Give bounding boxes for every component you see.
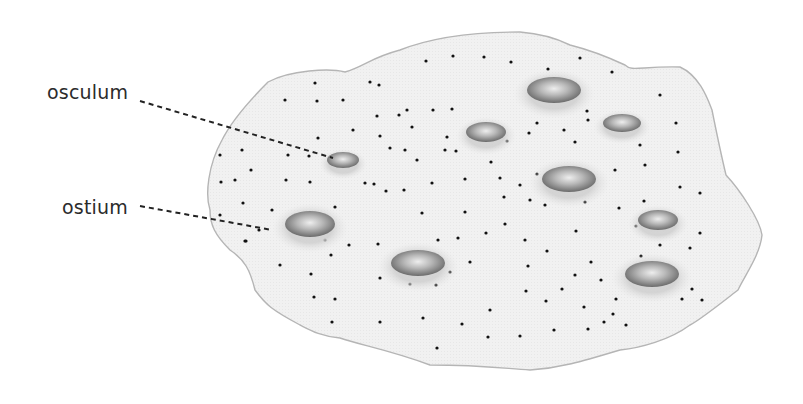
pore-dot xyxy=(454,149,457,152)
pore-dot xyxy=(377,83,380,86)
pore-dot xyxy=(240,148,243,151)
osculum-opening xyxy=(378,242,459,291)
pore-dot xyxy=(498,176,501,179)
pore-dot xyxy=(315,99,318,102)
pore-dot xyxy=(573,273,576,276)
pore-dot xyxy=(586,118,589,121)
pore-dot xyxy=(599,278,602,281)
pore-dot xyxy=(397,113,400,116)
pore-dot xyxy=(690,287,693,290)
pore-dot xyxy=(610,70,613,73)
pore-dot xyxy=(698,191,701,194)
osculum-opening xyxy=(514,69,595,118)
pore-dot xyxy=(658,243,661,246)
pore-dot xyxy=(509,60,512,63)
pore-dot xyxy=(523,238,526,241)
pore-dot xyxy=(270,208,273,211)
pore-dot xyxy=(638,143,641,146)
pore-dot xyxy=(421,316,424,319)
pore-dot xyxy=(502,195,505,198)
pore-dot xyxy=(405,108,408,111)
pore-dot xyxy=(589,260,592,263)
pore-dot xyxy=(489,160,492,163)
label-ostium: ostium xyxy=(62,198,128,217)
pore-dot xyxy=(316,136,319,139)
pore-dot xyxy=(436,238,439,241)
pore-dot xyxy=(486,335,489,338)
pore-dot xyxy=(527,131,530,134)
pore-dot xyxy=(410,125,413,128)
pore-dot xyxy=(420,211,423,214)
pore-dot xyxy=(535,121,538,124)
pore-dot xyxy=(674,121,677,124)
pore-dot xyxy=(451,54,454,57)
pore-dot xyxy=(482,55,485,58)
osculum-opening xyxy=(628,205,688,243)
sponge-diagram: osculum ostium xyxy=(0,0,803,404)
pore-dot xyxy=(284,178,287,181)
pore-dot xyxy=(313,81,316,84)
pore-dot xyxy=(643,163,646,166)
pore-dot xyxy=(585,109,588,112)
pore-dot xyxy=(524,289,527,292)
pore-dot xyxy=(402,188,405,191)
pore-dot xyxy=(617,206,620,209)
pore-dot xyxy=(518,334,521,337)
pore-dot xyxy=(243,239,246,242)
pore-dot xyxy=(528,198,531,201)
pore-dot xyxy=(698,231,701,234)
pore-dot xyxy=(526,264,529,267)
pore-dot xyxy=(415,158,418,161)
pore-dot xyxy=(562,128,565,131)
pore-dot xyxy=(424,59,427,62)
pore-dot xyxy=(658,93,661,96)
pore-dot xyxy=(578,56,581,59)
pore-dot xyxy=(241,201,244,204)
pore-dot xyxy=(552,328,555,331)
osculum-opening xyxy=(594,110,651,144)
pore-dot xyxy=(375,114,378,117)
pore-dot xyxy=(545,249,548,252)
pore-dot xyxy=(435,346,438,349)
pore-dot xyxy=(642,199,645,202)
pore-dot xyxy=(582,305,585,308)
osculum-opening xyxy=(273,203,348,252)
pore-dot xyxy=(484,231,487,234)
pore-dot xyxy=(463,210,466,213)
pore-dot xyxy=(678,185,681,188)
pore-dot xyxy=(614,297,617,300)
osculum-opening xyxy=(612,253,693,302)
pore-dot xyxy=(403,148,406,151)
pore-dot xyxy=(503,222,506,225)
pore-dot xyxy=(283,98,286,101)
pore-dot xyxy=(573,140,576,143)
pore-dot xyxy=(333,297,336,300)
pore-dot xyxy=(333,205,336,208)
pore-dot xyxy=(218,213,221,216)
pore-dot xyxy=(308,180,311,183)
pore-dot xyxy=(341,98,344,101)
pore-dot xyxy=(468,260,471,263)
pore-dot xyxy=(249,168,252,171)
sponge-body-outline xyxy=(208,32,762,370)
pore-dot xyxy=(307,154,310,157)
pore-dot xyxy=(611,312,614,315)
pore-dot xyxy=(384,189,387,192)
pore-dot xyxy=(286,153,289,156)
pore-dot xyxy=(347,243,350,246)
pore-dot xyxy=(688,246,691,249)
pore-dot xyxy=(431,108,434,111)
pore-dot xyxy=(445,135,448,138)
pore-dot xyxy=(543,203,546,206)
pore-dot xyxy=(378,134,381,137)
label-osculum: osculum xyxy=(47,83,128,102)
pore-dot xyxy=(278,263,281,266)
pore-dot xyxy=(368,80,371,83)
pore-dot xyxy=(463,177,466,180)
osculum-opening xyxy=(319,149,367,179)
pore-dot xyxy=(257,228,260,231)
pore-dot xyxy=(233,178,236,181)
pore-dot xyxy=(218,153,221,156)
pore-dot xyxy=(443,148,446,151)
pore-dot xyxy=(560,287,563,290)
